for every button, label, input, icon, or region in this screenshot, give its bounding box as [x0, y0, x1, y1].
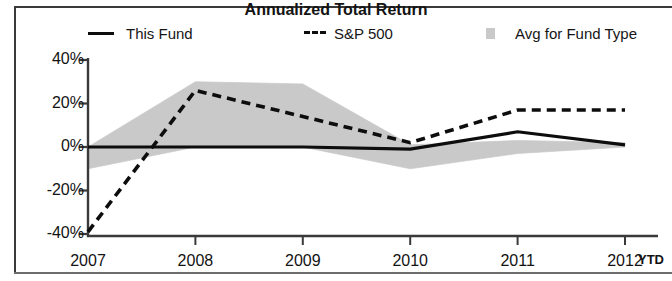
- plot-area: [0, 0, 672, 281]
- avg-fund-type-band: [88, 82, 625, 169]
- y-tick-label: -40%: [18, 224, 84, 242]
- y-tick-label: 0%: [18, 137, 84, 155]
- chart-container: Annualized Total Return This Fund S&P 50…: [0, 0, 672, 281]
- y-tick-label: -20%: [18, 181, 84, 199]
- x-tick-label: 2009: [268, 252, 338, 270]
- y-tick-label: 40%: [18, 50, 84, 68]
- x-axis-ytd-label: YTD: [638, 252, 664, 267]
- y-axis-labels: 40%20%0%-20%-40%: [0, 0, 84, 281]
- x-tick-label: 2008: [160, 252, 230, 270]
- x-tick-label: 2007: [53, 252, 123, 270]
- x-tick-label: 2011: [483, 252, 553, 270]
- x-tick-label: 2010: [375, 252, 445, 270]
- y-tick-label: 20%: [18, 94, 84, 112]
